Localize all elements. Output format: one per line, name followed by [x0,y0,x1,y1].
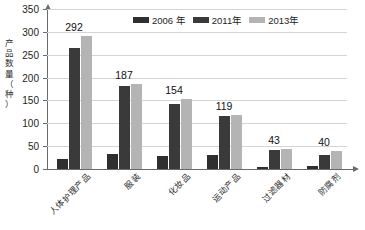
bar [207,155,218,169]
y-axis-tick [43,55,47,56]
y-axis-tick-label: 150 [11,95,39,106]
bar [269,150,280,169]
bar-value-label: 292 [51,21,97,33]
x-axis-category-label: 服装 [121,170,142,191]
y-axis-tick [43,123,47,124]
bar [257,167,268,169]
y-axis-tick-label: 50 [11,141,39,152]
bar-group: 43 [257,9,293,169]
bar [107,154,118,169]
bar [169,104,180,169]
bar-group: 154 [157,9,193,169]
bar [231,115,242,169]
bar [81,36,92,169]
y-axis-tick-label: 100 [11,118,39,129]
bar-value-label: 119 [201,100,247,112]
bar [119,86,130,169]
bar [69,48,80,169]
y-axis-tick [43,146,47,147]
y-axis-tick [43,32,47,33]
bar-group: 119 [207,9,243,169]
bar [157,156,168,169]
y-axis-tick [43,100,47,101]
y-axis-tick [43,78,47,79]
bar [281,149,292,169]
x-axis-category-label: 过滤器材 [259,170,293,204]
bar [57,159,68,169]
y-axis-line [47,9,48,169]
bar [331,151,342,169]
x-axis-labels: 人体护理产品服装化妆品运动产品过滤器材防腐剂 [47,170,347,230]
bar-group: 187 [107,9,143,169]
y-axis-tick-label: 300 [11,26,39,37]
bar [219,116,230,169]
bar [131,84,142,169]
y-axis-title-char: 产 [3,38,16,48]
y-axis-tick-label: 350 [11,4,39,15]
bar [307,166,318,169]
bar-chart: 产品数量（种） 2006 年2011年2013年 050100150200250… [0,0,365,230]
x-axis-category-label: 运动产品 [209,170,243,204]
y-axis-tick [43,9,47,10]
bar-group: 40 [307,9,343,169]
bar [181,99,192,169]
y-axis-tick-label: 250 [11,49,39,60]
bar-value-label: 154 [151,84,197,96]
bar-value-label: 43 [251,134,297,146]
bar-group: 292 [57,9,93,169]
x-axis-category-label: 防腐剂 [315,170,343,198]
bar [319,155,330,169]
x-axis-arrow [353,166,359,172]
y-axis-tick-label: 0 [11,164,39,175]
x-axis-category-label: 人体护理产品 [46,170,93,217]
x-axis-category-label: 化妆品 [165,170,193,198]
bar-value-label: 40 [301,136,347,148]
y-axis-tick-label: 200 [11,72,39,83]
bar-value-label: 187 [101,69,147,81]
plot-area: 050100150200250300350 2921871541194340 [47,9,347,169]
